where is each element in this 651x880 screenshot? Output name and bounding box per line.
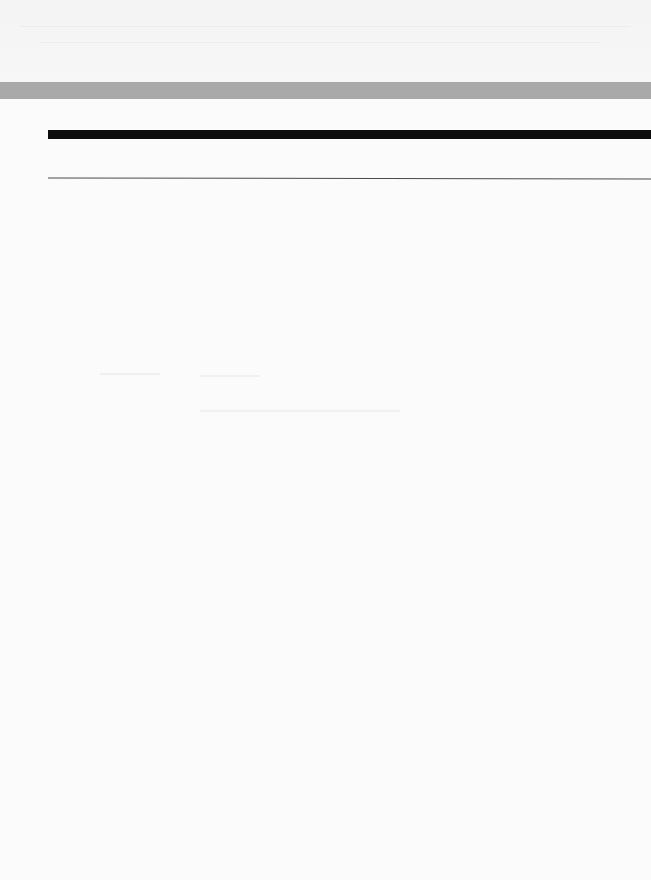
scan-header-band [0,0,651,82]
show-through-line [40,42,600,43]
thick-horizontal-rule [48,130,651,139]
show-through-mark [100,373,160,375]
header-gray-bar [0,82,651,99]
page-body [48,190,628,850]
thin-horizontal-rule [48,177,651,179]
show-through-mark [200,410,400,412]
show-through-mark [200,375,260,377]
show-through-line [20,26,630,27]
